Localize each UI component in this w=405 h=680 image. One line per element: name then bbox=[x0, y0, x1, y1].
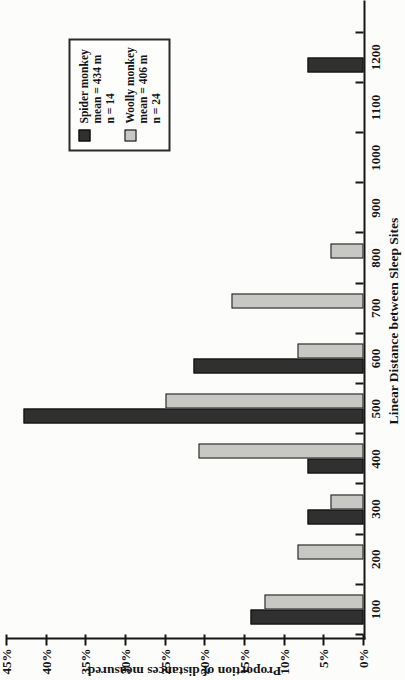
y-axis-tick bbox=[283, 634, 285, 645]
x-axis-tick bbox=[355, 583, 363, 585]
x-axis-tick-label: 600 bbox=[368, 333, 382, 383]
y-axis-tick bbox=[322, 634, 324, 645]
x-axis-tick bbox=[355, 131, 363, 133]
bar-woolly-monkey-600 bbox=[297, 343, 363, 358]
bar-woolly-monkey-300 bbox=[330, 494, 363, 509]
y-axis-tick bbox=[124, 634, 126, 645]
y-axis-tick-label: 20% bbox=[197, 648, 211, 680]
bar-chart-rotated: Proportion of distances measured Linear … bbox=[0, 0, 405, 680]
x-axis-title: Linear Distance between Sleep Sites bbox=[385, 2, 401, 639]
x-axis-tick bbox=[355, 483, 363, 485]
y-axis-tick-label: 40% bbox=[39, 648, 53, 680]
x-axis-tick-label: 100 bbox=[368, 584, 382, 634]
bar-spider-monkey-100 bbox=[250, 609, 363, 624]
y-axis-title: Proportion of distances measured bbox=[87, 662, 280, 678]
y-axis-tick bbox=[164, 634, 166, 645]
x-axis-tick bbox=[355, 31, 363, 33]
y-axis-tick-label: 10% bbox=[277, 648, 291, 680]
y-axis-tick-label: 0% bbox=[356, 648, 370, 680]
bar-spider-monkey-600 bbox=[193, 358, 363, 373]
x-axis-tick-label: 900 bbox=[368, 182, 382, 232]
bar-woolly-monkey-400 bbox=[198, 443, 363, 458]
x-axis-tick bbox=[355, 533, 363, 535]
bar-woolly-monkey-200 bbox=[297, 544, 363, 559]
x-axis-tick-label: 700 bbox=[368, 283, 382, 333]
x-axis-tick bbox=[355, 382, 363, 384]
x-axis-tick-label: 400 bbox=[368, 433, 382, 483]
x-axis-tick-label: 1100 bbox=[368, 82, 382, 132]
legend-swatch bbox=[78, 129, 90, 141]
y-axis-tick bbox=[243, 634, 245, 645]
y-axis-tick-label: 45% bbox=[0, 648, 13, 680]
bar-spider-monkey-300 bbox=[307, 509, 363, 524]
x-axis-tick bbox=[355, 81, 363, 83]
legend-text: Spider monkeymean = 434 mn = 14 bbox=[77, 49, 116, 123]
legend-entry-woolly-monkey: Woolly monkeymean = 406 mn = 24 bbox=[123, 46, 162, 141]
x-axis-tick-label: 1200 bbox=[368, 32, 382, 82]
y-axis-tick bbox=[5, 634, 7, 645]
x-axis-tick-label: 200 bbox=[368, 534, 382, 584]
bar-spider-monkey-400 bbox=[307, 458, 363, 473]
x-axis-tick bbox=[355, 432, 363, 434]
bar-woolly-monkey-700 bbox=[231, 293, 363, 308]
x-axis-tick bbox=[355, 232, 363, 234]
x-axis-tick-label: 800 bbox=[368, 233, 382, 283]
x-axis-tick bbox=[355, 633, 363, 635]
bar-woolly-monkey-800 bbox=[330, 243, 363, 258]
x-axis-tick-label: 500 bbox=[368, 383, 382, 433]
x-axis-tick bbox=[355, 181, 363, 183]
y-axis-tick-label: 5% bbox=[316, 648, 330, 680]
x-axis-tick-label: 1000 bbox=[368, 132, 382, 182]
y-axis-tick bbox=[84, 634, 86, 645]
y-axis-tick bbox=[362, 634, 364, 645]
y-axis-tick-label: 15% bbox=[237, 648, 251, 680]
x-axis-tick bbox=[355, 282, 363, 284]
y-axis-tick bbox=[45, 634, 47, 645]
x-axis-tick bbox=[355, 332, 363, 334]
legend-entry-spider-monkey: Spider monkeymean = 434 mn = 14 bbox=[77, 46, 116, 141]
y-axis-tick-label: 30% bbox=[118, 648, 132, 680]
plot-area bbox=[6, 0, 365, 639]
bar-spider-monkey-500 bbox=[23, 408, 363, 423]
legend: Spider monkeymean = 434 mn = 14Woolly mo… bbox=[68, 38, 170, 151]
bar-spider-monkey-1200 bbox=[307, 57, 363, 72]
y-axis-tick bbox=[203, 634, 205, 645]
legend-swatch bbox=[124, 129, 136, 141]
y-axis-tick-label: 35% bbox=[78, 648, 92, 680]
x-axis-tick-label: 300 bbox=[368, 484, 382, 534]
bar-woolly-monkey-500 bbox=[165, 393, 363, 408]
scanned-figure-page: Proportion of distances measured Linear … bbox=[0, 0, 405, 680]
bar-woolly-monkey-100 bbox=[264, 594, 363, 609]
y-axis-tick-label: 25% bbox=[158, 648, 172, 680]
legend-text: Woolly monkeymean = 406 mn = 24 bbox=[123, 47, 162, 123]
